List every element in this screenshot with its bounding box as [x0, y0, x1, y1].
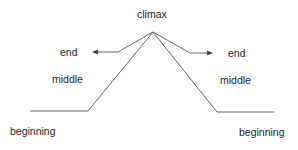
right-arrowhead-icon — [207, 51, 213, 56]
climax-label: climax — [137, 8, 167, 20]
left-middle-label: middle — [52, 73, 83, 85]
right-end-label: end — [228, 47, 246, 59]
left-rising-line — [30, 32, 153, 111]
plot-structure-diagram: climax end middle beginning end middle b… — [0, 0, 298, 150]
right-falling-line — [153, 32, 275, 112]
right-beginning-label: beginning — [239, 126, 285, 138]
left-beginning-label: beginning — [10, 125, 56, 137]
left-end-label: end — [60, 46, 78, 58]
left-arrowhead-icon — [92, 50, 98, 55]
right-middle-label: middle — [220, 74, 251, 86]
